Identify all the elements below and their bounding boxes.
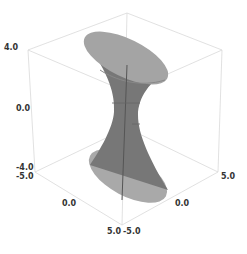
z-tick-bot: -4.0 (16, 163, 34, 172)
x-tick-left: -5.0 (16, 172, 34, 181)
y-tick-left: -5.0 (123, 227, 141, 236)
z-tick-top: 4.0 (4, 43, 19, 52)
z-tick-mid: 0.0 (16, 104, 31, 113)
hyperboloid-3d-plot: 4.0 0.0 -4.0 -5.0 0.0 5.0 -5.0 0.0 5.0 (0, 0, 247, 254)
hyperboloid-surface (76, 21, 175, 214)
y-tick-right: 5.0 (221, 172, 236, 181)
x-tick-right: 5.0 (107, 227, 122, 236)
x-tick-mid: 0.0 (62, 199, 77, 208)
z-axis-ticks: 4.0 0.0 -4.0 (4, 43, 34, 172)
y-tick-mid: 0.0 (175, 199, 190, 208)
